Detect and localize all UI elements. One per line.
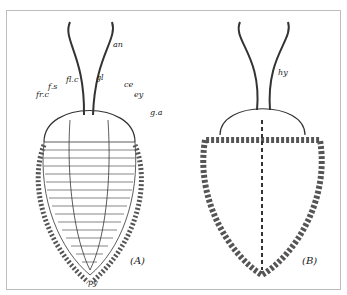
label-fl-c: fl.c xyxy=(66,75,78,84)
label-eye: ey xyxy=(134,90,143,99)
trilobite-ventral-view xyxy=(203,22,321,275)
label-fr-c: fr.c xyxy=(36,90,49,99)
trilobite-illustration xyxy=(0,0,347,295)
label-pygidium: py xyxy=(88,278,98,287)
label-facial-suture: f.s xyxy=(48,82,57,91)
trilobite-dorsal-view xyxy=(38,22,141,282)
label-hypostome: hy xyxy=(278,68,288,77)
panel-a-caption: (A) xyxy=(130,255,145,266)
label-antenna: an xyxy=(113,40,123,49)
panel-b-caption: (B) xyxy=(302,255,317,266)
label-genal-angle: g.a xyxy=(150,108,162,117)
label-ce: ce xyxy=(124,80,133,89)
label-glabella: gl xyxy=(96,73,104,82)
